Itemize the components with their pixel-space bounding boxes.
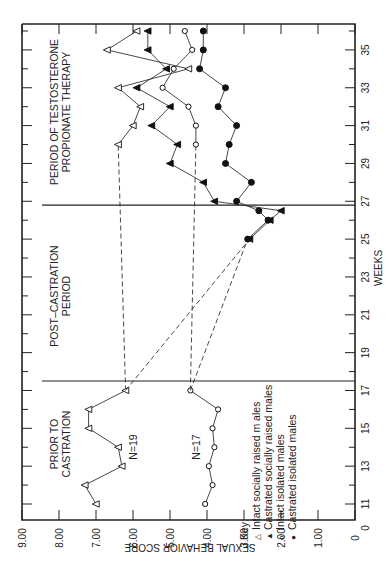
series-castrated-isolated-males	[190, 28, 271, 390]
legend-label: Intact socially raised m ales	[250, 402, 262, 530]
open-circle-marker	[210, 482, 215, 487]
open-triangle-marker	[115, 444, 122, 450]
legend-item-castrated-isolated: ● Castrated isolated males	[286, 414, 298, 540]
week-tick-label: 29	[360, 157, 371, 169]
score-tick-label: 7.00	[91, 528, 102, 548]
week-tick-label: 17	[360, 384, 371, 396]
week-tick-label: 25	[360, 233, 371, 245]
filled-circle-marker	[245, 236, 251, 242]
open-circle-marker	[193, 142, 198, 147]
week-tick-label: 27	[360, 195, 371, 207]
week-tick-label: 35	[360, 44, 371, 56]
open-triangle-marker	[129, 122, 136, 128]
dashed-connector	[118, 145, 125, 391]
series-line	[85, 466, 122, 485]
series-line	[133, 107, 140, 126]
series-line	[152, 126, 178, 145]
score-tick-label: 1.00	[313, 528, 324, 548]
week-origin-label: 0	[360, 525, 371, 531]
filled-circle-marker	[215, 104, 221, 110]
series-line	[137, 88, 170, 107]
period-label-post: POST–CASTRATION PERIOD	[48, 245, 72, 346]
series-line	[174, 50, 193, 69]
open-triangle-marker	[185, 66, 192, 72]
score-tick-label: 8.00	[54, 528, 65, 548]
legend-label: Intact isolated males	[274, 434, 286, 530]
weeks-axis-title: WEEKS	[373, 250, 384, 286]
series-line	[237, 201, 259, 210]
legend-item-castrated-social: ▲ Castrated socially raised males	[262, 385, 274, 540]
filled-circle-marker	[265, 217, 271, 223]
open-circle-marker	[182, 28, 187, 33]
series-line	[107, 31, 137, 50]
open-triangle-icon: △	[253, 533, 262, 540]
open-circle-marker	[171, 66, 176, 71]
open-circle-marker	[210, 426, 215, 431]
period-label-prior: PRIOR TO CASTRATION	[48, 411, 72, 478]
week-tick-label: 11	[360, 498, 371, 509]
legend-item-intact-social: △ Intact socially raised m ales	[250, 402, 262, 540]
filled-circle-marker	[223, 85, 229, 91]
legend-label: Castrated isolated males	[286, 414, 298, 530]
score-tick-label: 0	[350, 535, 361, 541]
series-line	[200, 69, 226, 88]
period-label-therapy: PERIOD OF TESTOSTERONE PROPIONATE THERAP…	[48, 39, 72, 185]
n17-annotation: N=17	[190, 434, 202, 460]
sexual-behavior-chart: PERIOD OF TESTOSTERONE PROPIONATE THERAP…	[0, 0, 389, 564]
series-line	[170, 145, 177, 164]
series-line	[118, 69, 188, 88]
week-tick-label: 21	[360, 309, 371, 321]
score-tick-label: 2.00	[276, 528, 287, 548]
open-triangle-marker	[103, 47, 110, 53]
legend-item-intact-isolated: o Intact isolated males	[274, 434, 286, 540]
open-triangle-marker	[133, 28, 140, 34]
legend: Key: △ Intact socially raised m ales ▲ C…	[238, 385, 298, 540]
dashed-connector	[126, 239, 250, 390]
prior-label-line2: CASTRATION	[60, 411, 72, 478]
filled-triangle-marker	[166, 160, 173, 166]
post-label-line2: PERIOD	[60, 275, 72, 316]
filled-circle-marker	[256, 208, 262, 214]
score-tick-label: 3.00	[239, 528, 250, 548]
series-line	[218, 107, 237, 126]
open-circle-marker	[190, 47, 195, 52]
week-tick-label: 19	[360, 347, 371, 359]
score-tick-label: 5.00	[165, 528, 176, 548]
week-tick-label: 15	[360, 422, 371, 434]
open-circle-marker	[212, 445, 217, 450]
filled-circle-marker	[226, 142, 232, 148]
period-dividers	[42, 205, 355, 381]
score-tick-label: 9.00	[17, 528, 28, 548]
dashed-connector	[190, 239, 247, 390]
week-tick-label: 23	[360, 271, 371, 283]
open-triangle-marker	[92, 501, 99, 507]
series-line	[170, 163, 203, 182]
prior-label-line1: PRIOR TO	[48, 419, 60, 469]
filled-circle-marker	[234, 123, 240, 129]
dashed-connector	[190, 145, 196, 391]
series-line	[163, 88, 189, 107]
open-circle-marker	[193, 123, 198, 128]
legend-label: Castrated socially raised males	[262, 385, 274, 530]
filled-circle-marker	[223, 160, 229, 166]
filled-triangle-marker	[148, 122, 155, 128]
open-circle-marker	[186, 104, 191, 109]
week-tick-label: 31	[360, 120, 371, 132]
series-line	[237, 182, 252, 201]
therapy-label-line2: PROPIONATE THERAPY	[60, 52, 72, 172]
open-circle-marker	[203, 501, 208, 506]
open-triangle-marker	[115, 85, 122, 91]
score-axis-title: SEXUAL BEHAVIOR SCORE	[124, 542, 255, 553]
filled-circle-marker	[197, 66, 203, 72]
filled-triangle-marker	[200, 179, 207, 185]
series-line	[226, 163, 252, 182]
therapy-label-line1: PERIOD OF TESTOSTERONE	[48, 39, 60, 185]
series-line	[248, 220, 268, 239]
filled-triangle-marker	[133, 85, 140, 91]
filled-triangle-marker	[211, 198, 218, 204]
filled-triangle-icon: ▲	[265, 532, 274, 540]
open-circle-marker	[206, 464, 211, 469]
open-circle-marker	[216, 407, 221, 412]
open-triangle-marker	[81, 482, 88, 488]
filled-circle-marker	[234, 198, 240, 204]
